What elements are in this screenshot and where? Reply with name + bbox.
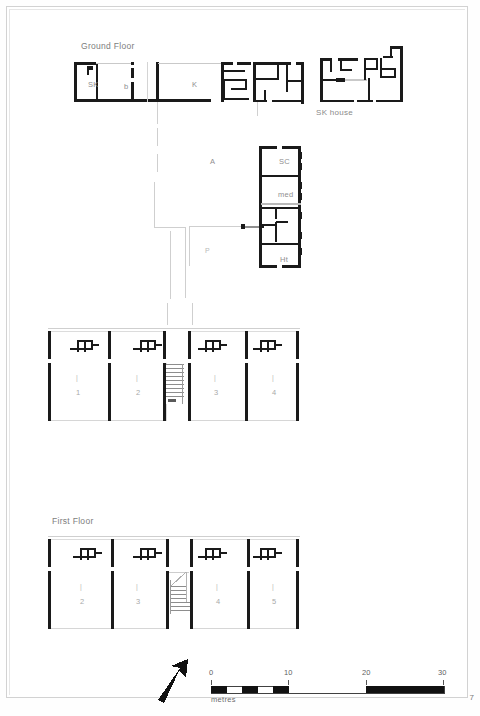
unit-mark: |	[216, 583, 218, 590]
north-arrow-icon	[158, 659, 188, 703]
room-label-b: b	[124, 82, 128, 91]
first-unit-number-2: 2	[80, 597, 84, 606]
ground-floor-unit-row	[48, 328, 300, 421]
ground-unit-number-1: 1	[76, 388, 80, 397]
scale-tick-20: 20	[362, 668, 370, 677]
ground-floor-upper-right-cluster	[221, 62, 304, 116]
ground-floor-staircase	[166, 364, 184, 404]
ground-unit-number-4: 4	[272, 388, 276, 397]
room-label-p: P	[205, 247, 210, 254]
scale-tick-10: 10	[284, 668, 292, 677]
sk-house-label: SK house	[316, 108, 353, 117]
room-label-med: med	[278, 190, 294, 199]
unit-mark: |	[76, 374, 78, 381]
scale-tick-30: 30	[438, 668, 446, 677]
unit-mark: |	[272, 374, 274, 381]
central-corridor-lines	[154, 128, 262, 325]
unit-mark: |	[80, 583, 82, 590]
first-floor-staircase	[169, 572, 190, 616]
ground-unit-number-2: 2	[136, 388, 140, 397]
ground-unit-number-3: 3	[214, 388, 218, 397]
room-label-k: K	[192, 80, 197, 89]
unit-mark: |	[136, 374, 138, 381]
sk-house-block	[320, 46, 403, 102]
page-number: 7	[470, 693, 474, 702]
plan-sheet: Ground Floor First Floor SK house SK b K…	[0, 0, 480, 716]
ground-floor-top-block	[74, 62, 222, 124]
first-unit-number-5: 5	[272, 597, 276, 606]
first-unit-number-4: 4	[216, 597, 220, 606]
room-label-sk: SK	[88, 80, 99, 89]
scale-bar-graphic	[211, 680, 444, 693]
unit-mark: |	[214, 374, 216, 381]
room-label-sc: SC	[279, 157, 290, 166]
floor-plan-drawing	[0, 0, 480, 716]
section-label-first-floor: First Floor	[52, 516, 94, 526]
scale-unit-label: metres	[211, 695, 236, 704]
first-floor-unit-row	[48, 536, 300, 629]
room-label-ht: Ht	[280, 255, 288, 264]
unit-mark: |	[136, 583, 138, 590]
room-label-a: A	[210, 157, 215, 166]
first-unit-number-3: 3	[136, 597, 140, 606]
unit-mark: |	[272, 583, 274, 590]
scale-tick-0: 0	[209, 668, 213, 677]
section-label-ground-floor: Ground Floor	[81, 41, 135, 51]
